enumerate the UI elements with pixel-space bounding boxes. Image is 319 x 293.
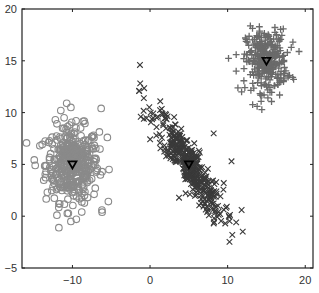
circle-point [61, 115, 68, 122]
y-tick-label: 10 [5, 107, 17, 119]
x-point [227, 239, 233, 245]
x-point [147, 136, 153, 142]
plus-point [234, 85, 241, 92]
x-point [141, 85, 147, 91]
plus-point [289, 39, 296, 46]
x-point [239, 207, 245, 213]
x-point [141, 95, 147, 101]
y-tick-label: 20 [5, 3, 17, 15]
x-point [157, 98, 163, 104]
circle-point [23, 140, 30, 147]
plus-point [268, 98, 275, 105]
circle-point [54, 212, 61, 219]
x-point [221, 180, 227, 186]
circle-point [44, 189, 51, 196]
circle-point [68, 104, 75, 111]
circle-point [37, 142, 44, 149]
circle-point [106, 166, 113, 173]
circle-point [98, 105, 105, 112]
x-point [221, 187, 227, 193]
circle-point [43, 196, 50, 203]
circle-point [78, 209, 85, 216]
x-point [154, 124, 160, 130]
x-point [176, 195, 182, 201]
plus-point [276, 92, 283, 99]
circle-point [63, 100, 70, 107]
plus-point [258, 106, 265, 113]
circle-point [73, 118, 80, 125]
circle-point [54, 121, 61, 128]
x-point [137, 62, 143, 68]
data-points [23, 23, 302, 245]
plus-point [225, 55, 232, 62]
x-tick-label: 10 [222, 274, 234, 286]
plus-point [241, 84, 248, 91]
plus-point [249, 80, 256, 87]
plus-point [240, 77, 247, 84]
y-tick-label: 15 [5, 55, 17, 67]
plus-point [258, 98, 265, 105]
circle-point [51, 195, 58, 202]
x-point [137, 81, 143, 87]
x-point [172, 122, 178, 128]
circle-point [105, 198, 112, 205]
plus-point [238, 88, 245, 95]
x-tick-label: −10 [63, 274, 82, 286]
plus-point [254, 79, 261, 86]
x-tick-label: 0 [147, 274, 153, 286]
circle-point [58, 107, 65, 114]
x-point [191, 141, 197, 147]
x-point [138, 114, 144, 120]
x-tick-label: 20 [299, 274, 311, 286]
x-point [146, 104, 152, 110]
y-tick-label: 5 [11, 158, 17, 170]
x-point [205, 166, 211, 172]
x-point [229, 158, 235, 164]
x-point [183, 190, 189, 196]
x-point [211, 131, 217, 137]
circle-point [104, 134, 111, 141]
plus-point [256, 23, 263, 30]
y-tick-label: −5 [4, 262, 17, 274]
plus-point [271, 82, 278, 89]
plus-point [241, 65, 248, 72]
plus-point [233, 68, 240, 75]
circle-point [91, 191, 98, 198]
circle-point [70, 202, 77, 209]
x-point [240, 229, 246, 235]
plus-point [296, 48, 303, 55]
circle-point [56, 224, 63, 231]
x-point [229, 232, 235, 238]
circle-point [52, 117, 59, 124]
x-point [136, 88, 142, 94]
x-point [171, 114, 177, 120]
plus-point [288, 44, 295, 51]
scatter-chart: −1001020 −505101520 [0, 0, 319, 293]
plus-point [233, 51, 240, 58]
y-tick-label: 0 [11, 210, 17, 222]
circle-point [92, 185, 99, 192]
x-point [141, 108, 147, 114]
x-point [233, 220, 239, 226]
